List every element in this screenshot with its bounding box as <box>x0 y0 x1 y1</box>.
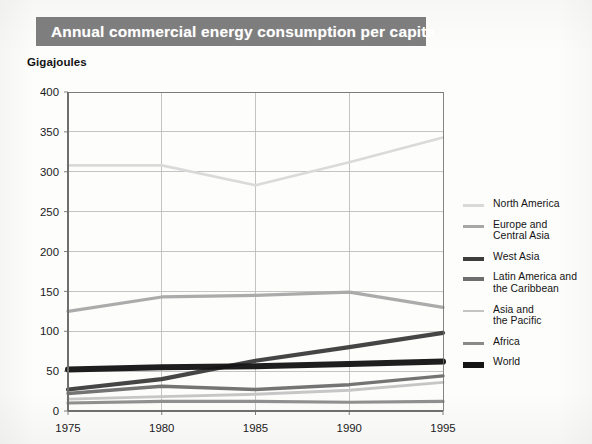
x-tick-label: 1995 <box>430 422 455 434</box>
legend-item-label: Africa <box>493 336 520 348</box>
legend-swatch-icon <box>463 310 484 313</box>
x-axis-ticks: 19751980198519901995 <box>55 411 455 434</box>
legend-item-label: North America <box>493 198 559 210</box>
legend-item-label: Europe and Central Asia <box>493 219 550 242</box>
chart-legend: North AmericaEurope and Central AsiaWest… <box>463 198 588 377</box>
legend-swatch-icon <box>463 342 484 345</box>
x-tick-label: 1990 <box>337 422 362 434</box>
y-tick-label: 250 <box>40 206 59 218</box>
y-tick-label: 400 <box>40 86 59 98</box>
legend-swatch-icon <box>463 257 484 261</box>
legend-item-label: Asia and the Pacific <box>493 304 542 327</box>
legend-swatch-icon <box>463 204 484 207</box>
y-axis-ticks: 050100150200250300350400 <box>40 86 68 417</box>
y-tick-label: 200 <box>40 246 59 258</box>
y-tick-label: 150 <box>40 286 59 298</box>
legend-item[interactable]: Europe and Central Asia <box>463 219 588 242</box>
x-tick-label: 1980 <box>149 422 174 434</box>
legend-item[interactable]: World <box>463 356 588 368</box>
y-tick-label: 350 <box>40 126 59 138</box>
x-tick-label: 1985 <box>243 422 268 434</box>
y-tick-label: 0 <box>53 405 59 417</box>
y-tick-label: 100 <box>40 325 59 337</box>
legend-item[interactable]: West Asia <box>463 251 588 263</box>
y-tick-label: 300 <box>40 166 59 178</box>
legend-item-label: World <box>493 356 520 368</box>
legend-item[interactable]: Africa <box>463 336 588 348</box>
legend-swatch-icon <box>463 277 484 280</box>
series-line <box>68 401 443 403</box>
y-tick-label: 50 <box>46 365 59 377</box>
legend-item-label: Latin America and the Caribbean <box>493 271 577 294</box>
x-tick-label: 1975 <box>55 422 80 434</box>
legend-item[interactable]: Asia and the Pacific <box>463 304 588 327</box>
legend-swatch-icon <box>463 362 484 368</box>
legend-item-label: West Asia <box>493 251 539 263</box>
legend-swatch-icon <box>463 225 484 228</box>
legend-item[interactable]: North America <box>463 198 588 210</box>
legend-item[interactable]: Latin America and the Caribbean <box>463 271 588 294</box>
